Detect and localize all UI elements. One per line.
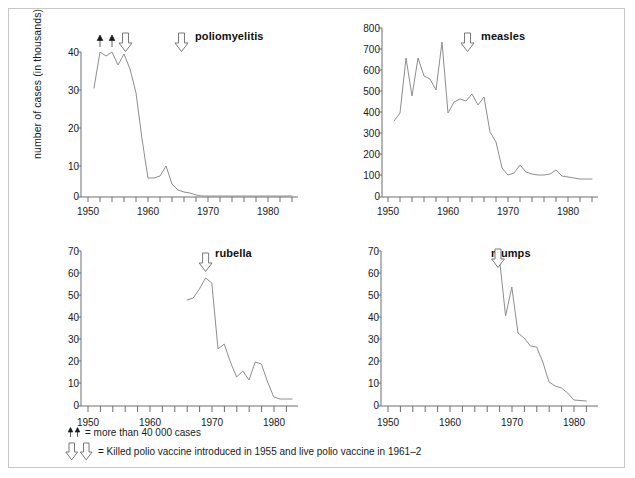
solid-up-arrow-icon-legend-1 xyxy=(68,428,73,438)
hollow-down-arrow-icon-legend-2 xyxy=(80,443,92,460)
figure-legend: = more than 40 000 cases = Killed polio … xyxy=(9,424,626,469)
solid-up-arrow-icon-legend-2 xyxy=(75,428,80,438)
data-line-rubella xyxy=(187,278,292,399)
hollow-down-arrow-icon-rubella xyxy=(199,253,212,272)
axis-lines-measles xyxy=(382,28,598,197)
solid-up-arrow-icon-1 xyxy=(97,35,103,47)
x-ticks-mumps xyxy=(388,406,586,412)
axis-lines-mumps xyxy=(381,251,598,406)
y-ticks-measles xyxy=(378,28,382,197)
y-ticks-rubella xyxy=(77,251,81,406)
x-ticks-rubella xyxy=(88,406,286,412)
chart-mumps: mumps 70 60 50 40 30 20 10 0 1950 1960 1… xyxy=(309,224,626,424)
solid-up-arrow-icon-2 xyxy=(109,35,115,47)
y-ticks-mumps xyxy=(377,251,381,406)
hollow-down-arrow-icon-mumps xyxy=(492,249,505,268)
figure-panel: number of cases (in thousands) poliomyel… xyxy=(8,8,625,468)
data-line-poliomyelitis xyxy=(94,52,292,196)
chart-rubella: rubella 70 60 50 40 30 20 10 0 1950 1960… xyxy=(9,224,309,424)
data-line-mumps xyxy=(499,258,586,401)
legend-text-polio-vaccine: = Killed polio vaccine introduced in 195… xyxy=(98,446,421,457)
hollow-down-arrow-icon-measles xyxy=(461,33,474,52)
legend-text-more-than-40000: = more than 40 000 cases xyxy=(85,427,201,438)
hollow-down-arrow-icon-polio-1961 xyxy=(175,33,188,52)
hollow-down-arrow-icon-legend-1 xyxy=(66,443,78,460)
axis-lines-poliomyelitis xyxy=(81,52,298,197)
hollow-down-arrow-icon-polio-1955 xyxy=(119,33,132,52)
chart-poliomyelitis: poliomyelitis 40 30 20 10 0 1950 1960 19… xyxy=(9,9,309,224)
axis-lines-rubella xyxy=(81,251,298,406)
x-ticks-measles xyxy=(388,197,592,202)
data-line-measles xyxy=(394,42,592,179)
y-ticks-poliomyelitis xyxy=(77,52,81,197)
chart-measles: measles 800 700 600 500 400 300 200 100 … xyxy=(309,9,626,224)
x-ticks-poliomyelitis xyxy=(88,197,292,202)
